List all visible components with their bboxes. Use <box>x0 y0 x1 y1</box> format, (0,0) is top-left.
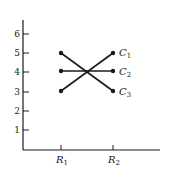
chart-svg: 1 2 3 4 5 6 R1 R2 <box>0 0 175 179</box>
y-tick-label-4: 4 <box>14 67 20 77</box>
data-point <box>59 89 63 93</box>
y-tick-label-6: 6 <box>14 29 20 39</box>
x-category-label-r1: R1 <box>55 154 68 167</box>
data-point <box>111 89 115 93</box>
y-ticks <box>23 34 29 130</box>
y-tick-label-3: 3 <box>14 87 20 97</box>
data-point <box>59 51 63 55</box>
series-label-c2: C2 <box>119 66 131 79</box>
data-point <box>59 69 63 73</box>
x-ticks <box>61 145 113 150</box>
data-point <box>111 51 115 55</box>
y-tick-label-1: 1 <box>14 125 20 135</box>
data-point <box>111 69 115 73</box>
y-tick-label-2: 2 <box>14 106 20 116</box>
series-label-c3: C3 <box>119 86 131 99</box>
x-category-label-r2: R2 <box>107 154 120 167</box>
y-tick-label-5: 5 <box>14 48 20 58</box>
interaction-chart: 1 2 3 4 5 6 R1 R2 <box>0 0 175 179</box>
series-label-c1: C1 <box>119 47 131 60</box>
y-tick-labels: 1 2 3 4 5 6 <box>14 29 20 135</box>
